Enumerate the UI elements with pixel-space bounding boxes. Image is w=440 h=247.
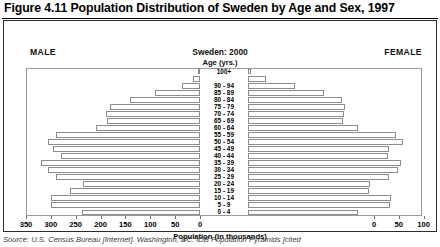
bar-row bbox=[248, 195, 422, 202]
axis-tick bbox=[76, 216, 77, 219]
bar-row bbox=[26, 188, 200, 195]
axis-tick bbox=[51, 216, 52, 219]
bar-row bbox=[26, 89, 200, 96]
bar-row bbox=[26, 103, 200, 110]
pyramid-plot-area: 100+90 - 9485 - 8980 - 8475 - 7970 - 746… bbox=[26, 68, 422, 216]
bar-male-85___89 bbox=[155, 90, 200, 96]
axis-tick bbox=[399, 216, 400, 219]
bar-row bbox=[248, 174, 422, 181]
axis-tick-label: 300 bbox=[45, 220, 58, 229]
bar-row bbox=[248, 146, 422, 153]
bar-female-15___19 bbox=[248, 188, 369, 194]
bar-row bbox=[248, 181, 422, 188]
figure-title: Figure 4.11 Population Distribution of S… bbox=[4, 1, 436, 15]
bar-row bbox=[248, 209, 422, 216]
bar-male-30___34 bbox=[48, 167, 200, 173]
bar-row bbox=[248, 188, 422, 195]
figure-container: Figure 4.11 Population Distribution of S… bbox=[0, 0, 440, 247]
bar-male-60___64 bbox=[96, 125, 200, 131]
age-axis-label: Age (yrs.) bbox=[4, 58, 436, 67]
bar-male-15___19 bbox=[70, 188, 200, 194]
bar-female-55___59 bbox=[248, 132, 396, 138]
bar-male-45___49 bbox=[53, 146, 200, 152]
bar-row bbox=[26, 96, 200, 103]
bar-row bbox=[26, 195, 200, 202]
title-divider bbox=[2, 18, 438, 19]
bar-male-20___24 bbox=[83, 181, 200, 187]
bar-male-80___84 bbox=[130, 97, 200, 103]
axis-tick-label: 100 bbox=[417, 220, 430, 229]
bar-female-90___94 bbox=[248, 83, 295, 89]
bar-row bbox=[26, 124, 200, 131]
axis-tick-label: 0 bbox=[198, 220, 202, 229]
bar-male-10___14 bbox=[51, 195, 200, 201]
axis-tick bbox=[26, 216, 27, 219]
female-panel bbox=[248, 68, 422, 216]
bar-row bbox=[26, 68, 200, 75]
bar-row bbox=[248, 68, 422, 75]
chart-subtitle: Sweden: 2000 bbox=[4, 47, 436, 57]
bar-row bbox=[26, 138, 200, 145]
bar-row bbox=[26, 117, 200, 124]
bar-female-60___64 bbox=[248, 125, 358, 131]
bar-male-25___29 bbox=[56, 174, 200, 180]
bar-male-5___9 bbox=[51, 202, 200, 208]
bar-row bbox=[26, 202, 200, 209]
axis-tick bbox=[200, 216, 201, 219]
axis-tick-label: 50 bbox=[171, 220, 179, 229]
bar-female-5___9 bbox=[248, 202, 390, 208]
bar-female-25___29 bbox=[248, 174, 389, 180]
bar-male-0___4 bbox=[82, 210, 200, 216]
bar-row bbox=[248, 124, 422, 131]
bar-female-100+ bbox=[248, 69, 251, 75]
bar-row bbox=[248, 131, 422, 138]
axis-tick-label: 150 bbox=[119, 220, 132, 229]
bar-female-20___24 bbox=[248, 181, 370, 187]
axis-tick bbox=[125, 216, 126, 219]
bar-female-0___4 bbox=[248, 210, 358, 216]
bar-female-80___84 bbox=[248, 97, 342, 103]
bar-female-75___79 bbox=[248, 104, 345, 110]
age-label-row: 0 - 4 bbox=[200, 209, 248, 216]
chart-frame: MALE Sweden: 2000 FEMALE Age (yrs.) 100+… bbox=[3, 20, 437, 232]
bar-row bbox=[248, 110, 422, 117]
age-label: 100+ bbox=[200, 68, 248, 74]
bar-row bbox=[248, 82, 422, 89]
axis-tick bbox=[175, 216, 176, 219]
bar-male-50___54 bbox=[48, 139, 200, 145]
bar-row bbox=[248, 153, 422, 160]
male-panel bbox=[26, 68, 200, 216]
axis-tick bbox=[150, 216, 151, 219]
axis-tick-label: 100 bbox=[144, 220, 157, 229]
bar-row bbox=[26, 209, 200, 216]
bar-row bbox=[248, 89, 422, 96]
bar-female-95___99 bbox=[248, 76, 266, 82]
bar-male-70___74 bbox=[106, 111, 200, 117]
axis-tick-label: 350 bbox=[20, 220, 33, 229]
age-label-row: 100+ bbox=[200, 68, 248, 75]
bar-male-95___99 bbox=[193, 76, 200, 82]
bar-male-40___44 bbox=[61, 153, 200, 159]
bar-row bbox=[26, 181, 200, 188]
axis-tick bbox=[101, 216, 102, 219]
bar-row bbox=[26, 153, 200, 160]
bar-row bbox=[248, 202, 422, 209]
bar-row bbox=[248, 103, 422, 110]
axis-tick bbox=[374, 216, 375, 219]
bar-female-70___74 bbox=[248, 111, 344, 117]
bar-row bbox=[248, 117, 422, 124]
bar-row bbox=[26, 131, 200, 138]
bar-row bbox=[26, 146, 200, 153]
bar-row bbox=[26, 82, 200, 89]
bar-male-35___39 bbox=[41, 160, 200, 166]
age-label: 0 - 4 bbox=[200, 209, 248, 215]
axis-tick-label: 50 bbox=[395, 220, 403, 229]
bar-male-90___94 bbox=[182, 83, 200, 89]
bar-female-10___14 bbox=[248, 195, 391, 201]
bar-row bbox=[248, 75, 422, 82]
bar-male-55___59 bbox=[56, 132, 200, 138]
bar-female-85___89 bbox=[248, 90, 324, 96]
bar-female-35___39 bbox=[248, 160, 401, 166]
bar-female-50___54 bbox=[248, 139, 403, 145]
bar-male-75___79 bbox=[110, 104, 200, 110]
